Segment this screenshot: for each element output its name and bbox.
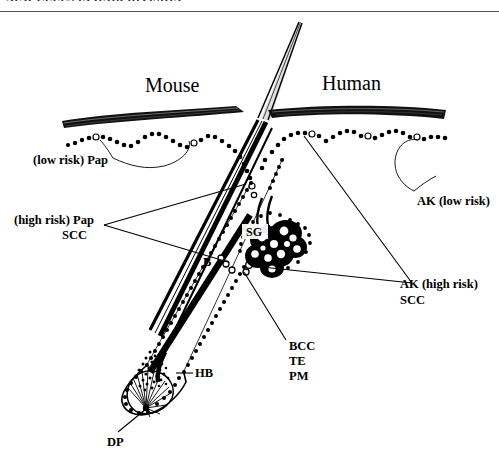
- panel-title-human: Human: [322, 72, 381, 94]
- label-ak-high-risk: AK (high risk): [400, 277, 478, 291]
- label-te: TE: [289, 354, 306, 368]
- human-basal-layer: [260, 129, 448, 171]
- label-high-risk-scc: SCC: [62, 228, 87, 242]
- label-low-risk-pap: (low risk) Pap: [33, 153, 108, 167]
- label-b: B: [203, 255, 211, 269]
- label-dp: DP: [107, 435, 124, 449]
- label-bcc: BCC: [289, 339, 315, 353]
- leader-ak-low-risk: [395, 140, 436, 191]
- label-high-risk-pap: (high risk) Pap: [14, 213, 94, 227]
- running-head: NEW CELLS IN HAIR DIVISION: [6, 0, 182, 1]
- human-stratum-corneum: [268, 106, 446, 119]
- label-ak-scc: SCC: [400, 293, 425, 307]
- mouse-stratum-corneum: [62, 106, 244, 128]
- leader-bcc-te-pm: [244, 272, 286, 340]
- label-sg: SG: [246, 225, 262, 239]
- label-hb: HB: [195, 366, 213, 380]
- label-pm: PM: [289, 369, 309, 383]
- label-ak-low-risk: AK (low risk): [417, 194, 490, 208]
- skin-follicle-diagram: Mouse Human (low risk) Pap (high risk) P…: [0, 0, 499, 457]
- header-rule: [0, 11, 499, 12]
- leader-low-risk-pap: [100, 140, 190, 168]
- panel-title-mouse: Mouse: [145, 74, 200, 96]
- hair-shaft: [258, 22, 302, 121]
- figure-container: NEW CELLS IN HAIR DIVISION: [0, 0, 499, 457]
